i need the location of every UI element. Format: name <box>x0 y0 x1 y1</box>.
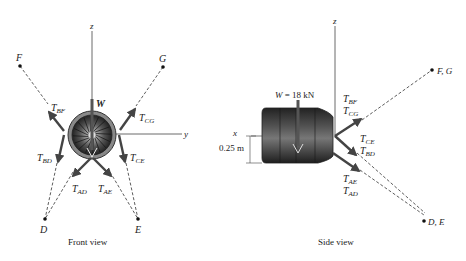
cable-ce-bd-dashed <box>357 153 425 213</box>
point-e-dot <box>136 217 140 221</box>
point-g-dot <box>161 65 165 69</box>
force-label-tcg-front: TCG <box>139 112 154 125</box>
force-label-tae-front: TAE <box>98 183 113 196</box>
force-arrow-tae-front <box>93 158 111 176</box>
point-e-label: E <box>134 224 141 235</box>
cable-bf-dashed <box>20 66 48 104</box>
force-arrow-tbd-front <box>58 135 64 162</box>
point-g-label: G <box>159 53 166 64</box>
point-d-label: D <box>39 224 48 235</box>
front-view-caption: Front view <box>68 237 108 247</box>
point-f-label: F <box>15 52 23 63</box>
force-arrow-tce-front <box>119 135 125 162</box>
force-label-tce-front: TCE <box>130 152 145 165</box>
cable-ae-dashed <box>110 172 138 219</box>
force-label-tcg-side: TCG <box>343 105 358 118</box>
cable-cg-dashed <box>136 67 163 106</box>
weight-label-front: W <box>96 98 106 109</box>
point-de-dot <box>422 219 426 223</box>
engine-mount-diagram: z y W F G D E <box>0 0 466 261</box>
cable-ae-ad-dashed <box>360 170 424 215</box>
force-label-tbf-front: TBF <box>51 102 66 115</box>
force-label-tbd-front: TBD <box>37 152 52 165</box>
force-label-tad-side: TAD <box>343 185 358 198</box>
force-label-tad-front: TAD <box>72 183 87 196</box>
point-d-dot <box>43 217 47 221</box>
side-view-caption: Side view <box>318 237 354 247</box>
cable-fg-dashed <box>362 70 432 120</box>
dimension-label: 0.25 m <box>219 143 244 153</box>
force-arrow-tcg-front <box>120 109 135 130</box>
point-fg-label: F, G <box>436 66 453 76</box>
y-axis-label-front: y <box>183 129 188 139</box>
z-axis-label-front: z <box>89 21 94 31</box>
force-arrow-tbf-tcg-side <box>335 119 361 136</box>
cable-ce-dashed <box>126 163 138 219</box>
point-fg-dot <box>430 68 434 72</box>
x-axis-label-side: x <box>232 128 237 138</box>
cable-bd-dashed <box>45 163 57 219</box>
weight-label-side: W = 18 kN <box>275 90 315 100</box>
force-arrow-tad-front <box>73 158 91 176</box>
side-view: z W = 18 kN x 0.25 m F, G D, E TB <box>219 16 453 247</box>
front-view: z y W F G D E <box>15 21 188 247</box>
force-label-tbd-side: TBD <box>360 145 375 158</box>
force-arrow-tce-tbd-side <box>335 136 356 155</box>
cable-ad-dashed <box>45 172 73 219</box>
point-de-label: D, E <box>427 217 445 227</box>
point-f-dot <box>18 64 22 68</box>
z-axis-label-side: z <box>332 16 337 26</box>
